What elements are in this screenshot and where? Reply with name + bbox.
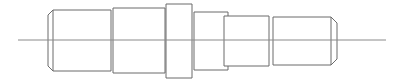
part-section-5 [224,16,269,66]
section-3-outline [166,4,192,78]
part-section-3 [166,4,192,78]
stepped-shaft-drawing [0,0,398,82]
part-section-6 [273,17,337,65]
technical-drawing-canvas [0,0,398,82]
section-4-outline [194,12,228,70]
part-section-4 [194,12,228,70]
section-6-outline [273,17,337,65]
section-5-outline [224,16,269,66]
